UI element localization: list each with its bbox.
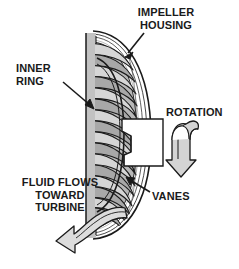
label-rotation: ROTATION [166,106,236,119]
label-inner-ring-line1: INNER [16,62,51,74]
label-impeller-housing-line2: HOUSING [140,19,192,31]
label-inner-ring-line2: RING [16,75,44,87]
leader-impeller-housing [125,33,144,59]
label-fluid-flow-line1: FLUID FLOWS [22,176,98,188]
label-vanes: VANES [152,190,212,203]
label-fluid-flow-line2: TOWARD [35,189,84,201]
label-rotation-line1: ROTATION [166,106,223,118]
label-vanes-line1: VANES [152,190,190,202]
label-fluid-flow: FLUID FLOWSTOWARDTURBINE [8,176,112,214]
rotation-curved-arrow [166,121,198,177]
label-impeller-housing-line1: IMPELLER [138,6,194,18]
label-inner-ring: INNERRING [16,62,96,87]
impeller-cutaway-illustration [0,0,239,269]
label-fluid-flow-line3: TURBINE [35,201,85,213]
diagram-canvas: IMPELLERHOUSING INNERRING ROTATION FLUID… [0,0,239,269]
label-impeller-housing: IMPELLERHOUSING [118,6,214,31]
